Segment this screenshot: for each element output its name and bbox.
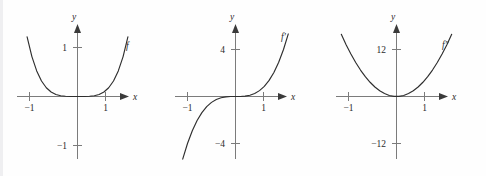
figure-container: y x −1 1 1 −1 f y x −1 1 4 −4 f′ [0, 0, 486, 176]
panel-f-double-prime: y x −1 1 12 −12 f″ [320, 0, 486, 176]
x-tick-label-pos-f: 1 [103, 103, 108, 113]
y-tick-label-pos-f-double-prime: 12 [377, 45, 387, 55]
y-tick-label-pos-f: 1 [62, 43, 67, 53]
x-axis-arrowhead-f [120, 93, 129, 100]
y-axis-label-f: y [71, 12, 77, 22]
x-tick-label-pos-f-double-prime: 1 [422, 103, 427, 113]
x-tick-label-neg-f: −1 [24, 103, 34, 113]
x-axis-label-f: x [132, 92, 138, 102]
y-tick-label-neg-f-prime: −4 [215, 139, 225, 149]
axes-group-f-prime [175, 24, 288, 159]
y-tick-label-neg-f-double-prime: −12 [371, 139, 386, 149]
y-axis-arrowhead-f [74, 24, 81, 33]
x-tick-label-pos-f-prime: 1 [261, 103, 266, 113]
y-axis-arrowhead-f-double-prime [393, 24, 400, 33]
x-axis-arrowhead-f-double-prime [439, 93, 448, 100]
x-tick-label-neg-f-prime: −1 [182, 103, 192, 113]
curve-label-f-double-prime: f″ [442, 40, 450, 50]
curve-label-f: f [126, 41, 130, 51]
axes-group-f-double-prime [336, 24, 449, 159]
x-axis-arrowhead-f-prime [278, 93, 287, 100]
panel-f-prime: y x −1 1 4 −4 f′ [160, 0, 325, 176]
x-axis-label-f-double-prime: x [451, 92, 457, 102]
y-tick-label-pos-f-prime: 4 [220, 45, 225, 55]
y-axis-label-f-prime: y [229, 12, 235, 22]
y-axis-label-f-double-prime: y [390, 12, 396, 22]
axes-group-f [17, 24, 130, 159]
x-axis-label-f-prime: x [290, 92, 296, 102]
x-tick-label-neg-f-double-prime: −1 [343, 103, 353, 113]
y-tick-label-neg-f: −1 [57, 141, 67, 151]
y-axis-arrowhead-f-prime [232, 24, 239, 33]
panel-f: y x −1 1 1 −1 f [0, 0, 162, 176]
